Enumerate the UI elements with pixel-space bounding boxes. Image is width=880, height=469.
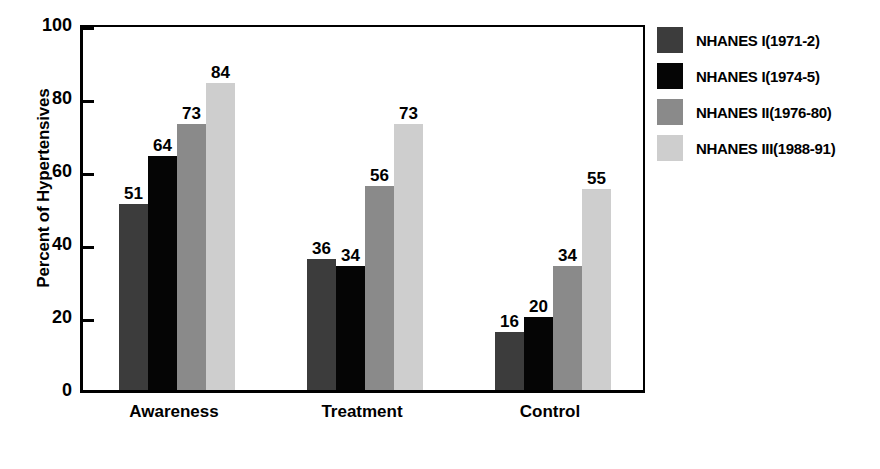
bar: 51 — [119, 204, 148, 390]
bar-value-label: 56 — [370, 167, 389, 184]
bar: 36 — [307, 259, 336, 390]
bar-value-label: 34 — [558, 247, 577, 264]
y-axis-tick-label: 100 — [18, 16, 72, 34]
bar-value-label: 84 — [211, 64, 230, 81]
bar-value-label: 55 — [587, 170, 606, 187]
bar: 56 — [365, 186, 394, 390]
x-axis-category-label: Control — [520, 402, 580, 422]
legend-swatch — [657, 27, 683, 53]
bar: 55 — [582, 189, 611, 390]
y-axis-tick-label: 0 — [18, 381, 72, 399]
bar: 64 — [148, 156, 177, 390]
y-axis-tick-label: 60 — [18, 162, 72, 180]
bar: 34 — [553, 266, 582, 390]
bar: 73 — [394, 124, 423, 390]
x-axis-category-label: Awareness — [129, 402, 218, 422]
bars-layer: 516473843634567316203455 — [83, 27, 643, 390]
legend-item: NHANES III(1988-91) — [657, 135, 835, 161]
legend-label: NHANES I(1971-2) — [696, 32, 820, 49]
bar-value-label: 36 — [312, 240, 331, 257]
plot-area: 516473843634567316203455 — [80, 25, 645, 393]
bar-chart-figure: Percent of Hypertensives 020406080100 51… — [0, 0, 880, 469]
bar: 16 — [495, 332, 524, 390]
bar: 73 — [177, 124, 206, 390]
bar-value-label: 20 — [529, 298, 548, 315]
bar-value-label: 16 — [500, 313, 519, 330]
legend-label: NHANES III(1988-91) — [696, 140, 835, 157]
bar: 20 — [524, 317, 553, 390]
y-axis-tick-label: 80 — [18, 89, 72, 107]
legend-swatch — [657, 63, 683, 89]
y-axis-tick-label: 20 — [18, 308, 72, 326]
legend-swatch — [657, 135, 683, 161]
legend-label: NHANES I(1974-5) — [696, 68, 820, 85]
chart-legend: NHANES I(1971-2)NHANES I(1974-5)NHANES I… — [657, 27, 835, 171]
bar-value-label: 64 — [153, 137, 172, 154]
bar-value-label: 73 — [399, 105, 418, 122]
bar: 34 — [336, 266, 365, 390]
y-axis-tick-label: 40 — [18, 235, 72, 253]
bar-value-label: 51 — [124, 185, 143, 202]
legend-item: NHANES II(1976-80) — [657, 99, 835, 125]
legend-label: NHANES II(1976-80) — [696, 104, 831, 121]
legend-item: NHANES I(1974-5) — [657, 63, 835, 89]
bar-value-label: 34 — [341, 247, 360, 264]
bar-value-label: 73 — [182, 105, 201, 122]
legend-item: NHANES I(1971-2) — [657, 27, 835, 53]
legend-swatch — [657, 99, 683, 125]
bar: 84 — [206, 83, 235, 390]
x-axis-category-label: Treatment — [321, 402, 402, 422]
